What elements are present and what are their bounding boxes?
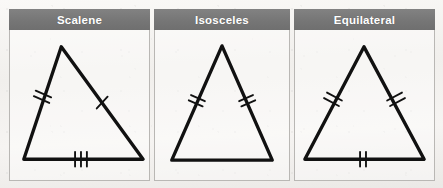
column-scalene: Scalene — [9, 9, 150, 181]
isosceles-triangle — [155, 30, 289, 180]
scalene-triangle-outline — [24, 47, 143, 159]
column-header-equilateral: Equilateral — [294, 9, 435, 30]
figure-cell-scalene — [9, 30, 150, 181]
equilateral-triangle-outline — [305, 47, 424, 159]
figure-cell-isosceles — [154, 30, 290, 181]
column-header-isosceles: Isosceles — [154, 9, 290, 30]
column-header-scalene: Scalene — [9, 9, 150, 30]
figure-cell-equilateral — [294, 30, 435, 181]
triangle-types-table: Scalene — [9, 9, 435, 181]
isosceles-triangle-outline — [172, 46, 273, 160]
column-isosceles: Isosceles — [154, 9, 290, 181]
scalene-triangle — [10, 30, 149, 180]
column-equilateral: Equilateral — [294, 9, 435, 181]
equilateral-triangle — [295, 30, 434, 180]
